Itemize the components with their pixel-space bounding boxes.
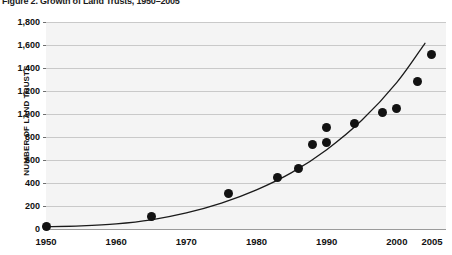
- data-point: [273, 173, 282, 182]
- data-point: [413, 77, 422, 86]
- x-tick-label: 1970: [156, 236, 216, 247]
- x-tick-label: 1950: [16, 236, 76, 247]
- data-point: [322, 138, 331, 147]
- gridline: [46, 229, 446, 230]
- data-point: [224, 189, 233, 198]
- x-tick-label: 1980: [227, 236, 287, 247]
- data-point: [392, 104, 401, 113]
- y-tick-mark: [43, 160, 46, 161]
- gridline: [46, 160, 446, 161]
- y-tick-label: 1,400: [0, 63, 40, 73]
- y-tick-mark: [43, 22, 46, 23]
- y-tick-mark: [43, 137, 46, 138]
- y-tick-mark: [43, 68, 46, 69]
- data-point: [322, 123, 331, 132]
- y-tick-mark: [43, 45, 46, 46]
- y-tick-mark: [43, 206, 46, 207]
- data-point: [378, 108, 387, 117]
- figure-title: Figure 2. Growth of Land Trusts, 1950–20…: [2, 0, 180, 6]
- y-tick-mark: [43, 183, 46, 184]
- data-point: [42, 222, 51, 231]
- gridline: [46, 22, 446, 23]
- gridline: [46, 183, 446, 184]
- gridline: [46, 68, 446, 69]
- y-tick-label: 1,600: [0, 40, 40, 50]
- y-tick-label: 1,800: [0, 17, 40, 27]
- trend-curve: [46, 22, 446, 229]
- gridline: [46, 91, 446, 92]
- y-tick-label: 800: [0, 132, 40, 142]
- y-tick-mark: [43, 91, 46, 92]
- y-tick-label: 0: [0, 224, 40, 234]
- y-tick-label: 600: [0, 155, 40, 165]
- data-point: [294, 164, 303, 173]
- data-point: [427, 50, 436, 59]
- gridline: [46, 45, 446, 46]
- y-tick-label: 200: [0, 201, 40, 211]
- data-point: [147, 212, 156, 221]
- y-tick-label: 400: [0, 178, 40, 188]
- gridline: [46, 206, 446, 207]
- y-tick-label: 1,000: [0, 109, 40, 119]
- data-point: [350, 119, 359, 128]
- x-tick-label: 1990: [297, 236, 357, 247]
- y-tick-label: 1,200: [0, 86, 40, 96]
- x-tick-label: 1960: [86, 236, 146, 247]
- chart-plot-area: 02004006008001,0001,2001,4001,6001,800: [46, 22, 446, 229]
- data-point: [308, 140, 317, 149]
- y-tick-mark: [43, 114, 46, 115]
- gridline: [46, 137, 446, 138]
- x-tick-label: 2005: [402, 236, 452, 247]
